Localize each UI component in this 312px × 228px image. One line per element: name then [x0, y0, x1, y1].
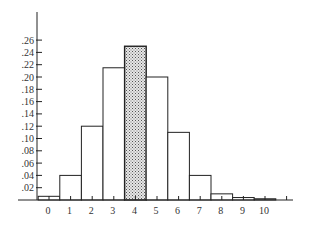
- y-tick-label: .22: [22, 59, 35, 70]
- x-tick-label: 7: [197, 205, 202, 216]
- x-tick-label: 5: [154, 205, 159, 216]
- bar: [103, 68, 125, 200]
- x-tick-label: 6: [175, 205, 180, 216]
- y-tick-label: .18: [22, 84, 35, 95]
- y-tick-label: .04: [22, 170, 35, 181]
- y-tick-label: .16: [22, 96, 35, 107]
- bar-highlighted: [125, 46, 147, 200]
- x-tick-label: 4: [132, 205, 137, 216]
- y-tick-label: .24: [22, 47, 35, 58]
- bar: [81, 126, 103, 200]
- bar: [168, 132, 190, 200]
- y-tick-label: .14: [22, 108, 35, 119]
- y-tick-label: .26: [22, 35, 35, 46]
- y-tick-label: .20: [22, 72, 35, 83]
- y-tick-label: .08: [22, 145, 35, 156]
- y-tick-label: .02: [22, 182, 35, 193]
- y-axis: .02.04.06.08.10.12.14.16.18.20.22.24.26: [22, 12, 43, 200]
- x-tick-label: 9: [240, 205, 245, 216]
- bars: [38, 46, 276, 200]
- x-tick-label: 2: [89, 205, 94, 216]
- histogram-chart: .02.04.06.08.10.12.14.16.18.20.22.24.26 …: [0, 0, 312, 228]
- x-tick-label: 0: [46, 205, 51, 216]
- x-tick-label: 1: [67, 205, 72, 216]
- y-tick-label: .10: [22, 133, 35, 144]
- y-tick-label: .06: [22, 158, 35, 169]
- bar: [146, 77, 168, 200]
- x-tick-label: 8: [218, 205, 223, 216]
- y-tick-label: .12: [22, 121, 35, 132]
- x-tick-label: 3: [110, 205, 115, 216]
- x-tick-label: 10: [259, 205, 269, 216]
